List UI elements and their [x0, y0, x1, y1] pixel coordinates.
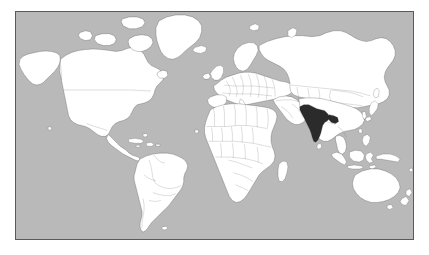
figure-root: [0, 0, 429, 255]
landmass-victoria-island: [94, 34, 116, 46]
world-map-svg: [16, 12, 413, 239]
landmass-puerto-rico: [156, 144, 160, 146]
landmass-jamaica: [136, 145, 140, 147]
world-map-frame: [15, 11, 414, 240]
